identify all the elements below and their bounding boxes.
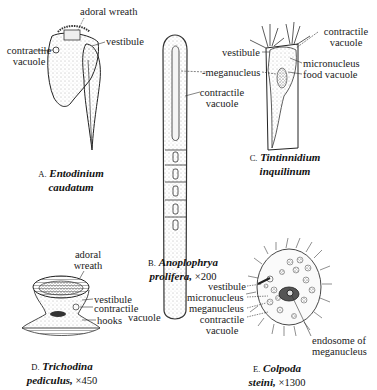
- caption-b: B. Anoplophrya prolifera, ×200: [138, 256, 228, 283]
- caption-e: E. Colpoda steini, ×1300: [232, 362, 322, 389]
- label-adoral-wreath-d: adoral wreath: [68, 249, 108, 271]
- caption-c: C. Tintinnidium inquilinum: [240, 151, 330, 178]
- label-contractile-vacuole-a: contractile vacuole: [3, 45, 55, 67]
- trichodina-drawing: [22, 271, 100, 336]
- label-contractile-vacuole-c: contractile vacuole: [318, 26, 374, 48]
- label-contractile-vacuole-e: contractile vacuole: [196, 314, 248, 336]
- label-meganucleus-b: -meganucleus: [202, 67, 260, 78]
- tintinnidium-drawing: [250, 22, 318, 150]
- label-micronucleus-c: micronucleus: [303, 58, 360, 69]
- label-food-vacuole-c: food vacuole: [303, 69, 358, 80]
- entodinium-drawing: [35, 18, 105, 150]
- colpoda-drawing: [246, 238, 332, 336]
- label-vestibule-c: vestibule: [222, 47, 260, 58]
- label-vestibule-e: vestibule: [208, 281, 246, 292]
- label-meganucleus-e: meganucleus: [189, 303, 244, 314]
- label-adoral-wreath-a: adoral wreath: [80, 6, 137, 17]
- label-endosome-e: endosome of meganucleus: [312, 335, 367, 357]
- label-vestibule-a: vestibule: [106, 36, 144, 47]
- label-vacuole-d: vacuole: [128, 312, 161, 323]
- caption-d: D. Trichodina pediculus, ×450: [22, 360, 102, 387]
- label-contractile-vacuole-b: contractile vacuole: [196, 87, 248, 109]
- caption-a: A. Entodinium caudatum: [36, 167, 106, 194]
- label-hooks-d: hooks: [97, 315, 122, 326]
- label-micronucleus-e: micronucleus: [187, 292, 244, 303]
